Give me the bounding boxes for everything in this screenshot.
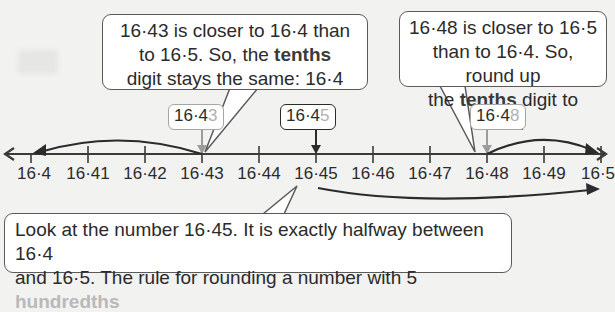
tick-label: 16·49 xyxy=(522,164,565,184)
tick-label: 16·47 xyxy=(408,164,451,184)
tag-16-48: 16·48 xyxy=(470,104,526,130)
tick-label: 16·43 xyxy=(180,164,223,184)
callout-text: and 16·5. The rule for rounding a number… xyxy=(15,266,505,312)
callout-16-48: 16·48 is closer to 16·5 than to 16·4. So… xyxy=(399,11,607,87)
callout-16-43: 16·43 is closer to 16·4 than to 16·5. So… xyxy=(102,14,368,90)
keyword-hundredths: hundredths xyxy=(15,291,120,312)
tag-16-45: 16·45 xyxy=(280,104,336,130)
tag-16-43: 16·43 xyxy=(168,104,224,130)
tag-digit: 5 xyxy=(320,106,329,125)
tag-prefix: 16·4 xyxy=(286,106,320,125)
callout-text: 16·43 is closer to 16·4 than xyxy=(109,19,361,43)
tick-label: 16·44 xyxy=(237,164,280,184)
callout-16-45: Look at the number 16·45. It is exactly … xyxy=(4,213,512,273)
text: the xyxy=(428,89,460,110)
callout-text: to 16·5. So, the tenths xyxy=(109,43,361,67)
curve-arrowhead-bottom-icon xyxy=(586,183,600,195)
tag-prefix: 16·4 xyxy=(174,106,208,125)
keyword-tenths: tenths xyxy=(274,44,331,65)
tick-label: 16·41 xyxy=(66,164,109,184)
callout-text: digit stays the same: 16·4 xyxy=(109,67,361,91)
tick-label: 16·5 xyxy=(581,164,615,184)
callout-text: than to 16·4. So, round up xyxy=(406,40,600,88)
tick-label: 16·46 xyxy=(351,164,394,184)
tick-label: 16·45 xyxy=(294,164,337,184)
bottom-callout-tail xyxy=(263,186,297,214)
callout-text: 16·48 is closer to 16·5 xyxy=(406,16,600,40)
tick-label: 16·48 xyxy=(465,164,508,184)
text: and 16·5. The rule for rounding a number… xyxy=(15,267,417,288)
tick-label: 16·42 xyxy=(123,164,166,184)
tag-digit: 3 xyxy=(208,106,217,125)
tick-label: 16·4 xyxy=(17,164,51,184)
black-down-arrow-icon xyxy=(311,145,321,154)
tag-digit: 8 xyxy=(510,106,519,125)
text: to 16·5. So, the xyxy=(139,44,274,65)
tag-prefix: 16·4 xyxy=(476,106,510,125)
callout-text: Look at the number 16·45. It is exactly … xyxy=(15,218,505,266)
